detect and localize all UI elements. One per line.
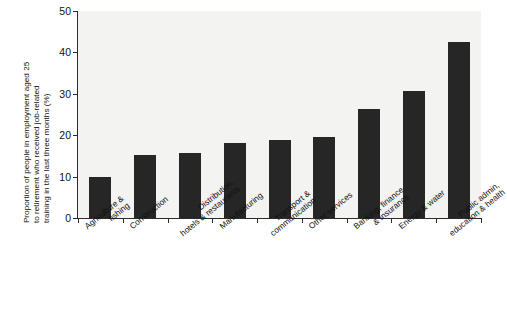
y-axis-title-line-2: to retirement who received job-related: [33, 85, 41, 223]
y-axis-tick-label: 10: [59, 171, 71, 183]
bar: [134, 155, 156, 218]
x-axis-tick: [123, 218, 124, 223]
y-axis-tick: [73, 52, 78, 53]
bar: [89, 177, 111, 218]
y-axis-tick-label: 0: [65, 212, 71, 224]
y-axis-tick: [73, 177, 78, 178]
y-axis-title: Proportion of people in employment aged …: [0, 0, 60, 225]
bar: [179, 153, 201, 218]
y-axis-tick: [73, 11, 78, 12]
bar: [403, 91, 425, 219]
x-axis-tick: [257, 218, 258, 223]
x-axis-tick: [436, 218, 437, 223]
plot-area: 01020304050: [77, 11, 481, 219]
x-axis-tick: [302, 218, 303, 223]
y-axis-title-line-1: Proportion of people in employment aged …: [23, 62, 31, 223]
y-axis-tick: [73, 94, 78, 95]
y-axis-tick-label: 50: [59, 5, 71, 17]
x-axis-tick: [391, 218, 392, 223]
x-axis-tick: [168, 218, 169, 223]
y-axis-tick-label: 40: [59, 46, 71, 58]
y-axis-tick: [73, 135, 78, 136]
bar: [358, 109, 380, 218]
bar: [448, 42, 470, 218]
x-axis-tick: [212, 218, 213, 223]
bar: [313, 137, 335, 218]
y-axis-tick-label: 30: [59, 88, 71, 100]
x-axis-tick: [347, 218, 348, 223]
bar: [224, 143, 246, 218]
y-axis-tick-label: 20: [59, 129, 71, 141]
plot-inner: 01020304050: [78, 11, 481, 218]
y-axis-title-line-3: training in the last three months (%): [43, 93, 51, 223]
x-axis-tick: [481, 218, 482, 223]
bar: [269, 140, 291, 218]
x-axis-tick: [78, 218, 79, 223]
